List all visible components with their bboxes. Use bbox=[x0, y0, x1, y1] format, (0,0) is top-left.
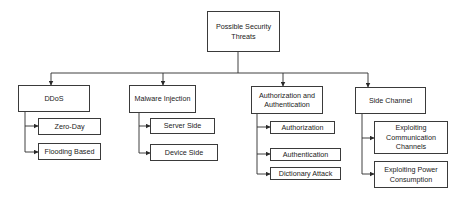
root-label: Possible Security Threats bbox=[210, 22, 277, 41]
category-ddos: DDoS bbox=[18, 85, 90, 112]
leaf-authentication: Authentication bbox=[270, 148, 341, 161]
leaf-flooding-based: Flooding Based bbox=[38, 143, 101, 160]
leaf-label: Authorization bbox=[282, 123, 324, 132]
category-label: DDoS bbox=[44, 94, 63, 103]
leaf-label: Server Side bbox=[164, 121, 202, 130]
leaf-label: Exploiting Communication Channels bbox=[381, 123, 441, 151]
category-authorization-authentication: Authorization and Authentication bbox=[251, 86, 323, 114]
category-label: Side Channel bbox=[369, 96, 412, 105]
leaf-label: Dictionary Attack bbox=[279, 169, 333, 178]
root-node: Possible Security Threats bbox=[207, 11, 280, 52]
leaf-device-side: Device Side bbox=[150, 144, 218, 161]
category-malware-injection: Malware Injection bbox=[129, 85, 196, 113]
leaf-zero-day: Zero-Day bbox=[38, 118, 101, 135]
leaf-exploiting-power-consumption: Exploiting Power Consumption bbox=[374, 161, 448, 188]
leaf-label: Device Side bbox=[165, 148, 203, 157]
leaf-authorization: Authorization bbox=[270, 121, 335, 134]
leaf-dictionary-attack: Dictionary Attack bbox=[270, 167, 341, 180]
leaf-label: Flooding Based bbox=[45, 147, 95, 156]
threat-diagram: Possible Security Threats DDoS Malware I… bbox=[0, 0, 464, 198]
category-side-channel: Side Channel bbox=[355, 87, 426, 114]
leaf-exploiting-communication-channels: Exploiting Communication Channels bbox=[374, 121, 448, 154]
leaf-label: Exploiting Power Consumption bbox=[379, 165, 443, 184]
leaf-label: Zero-Day bbox=[55, 122, 85, 131]
leaf-label: Authentication bbox=[283, 150, 329, 159]
category-label: Malware Injection bbox=[135, 94, 191, 103]
leaf-server-side: Server Side bbox=[150, 118, 215, 134]
category-label: Authorization and Authentication bbox=[254, 91, 320, 110]
